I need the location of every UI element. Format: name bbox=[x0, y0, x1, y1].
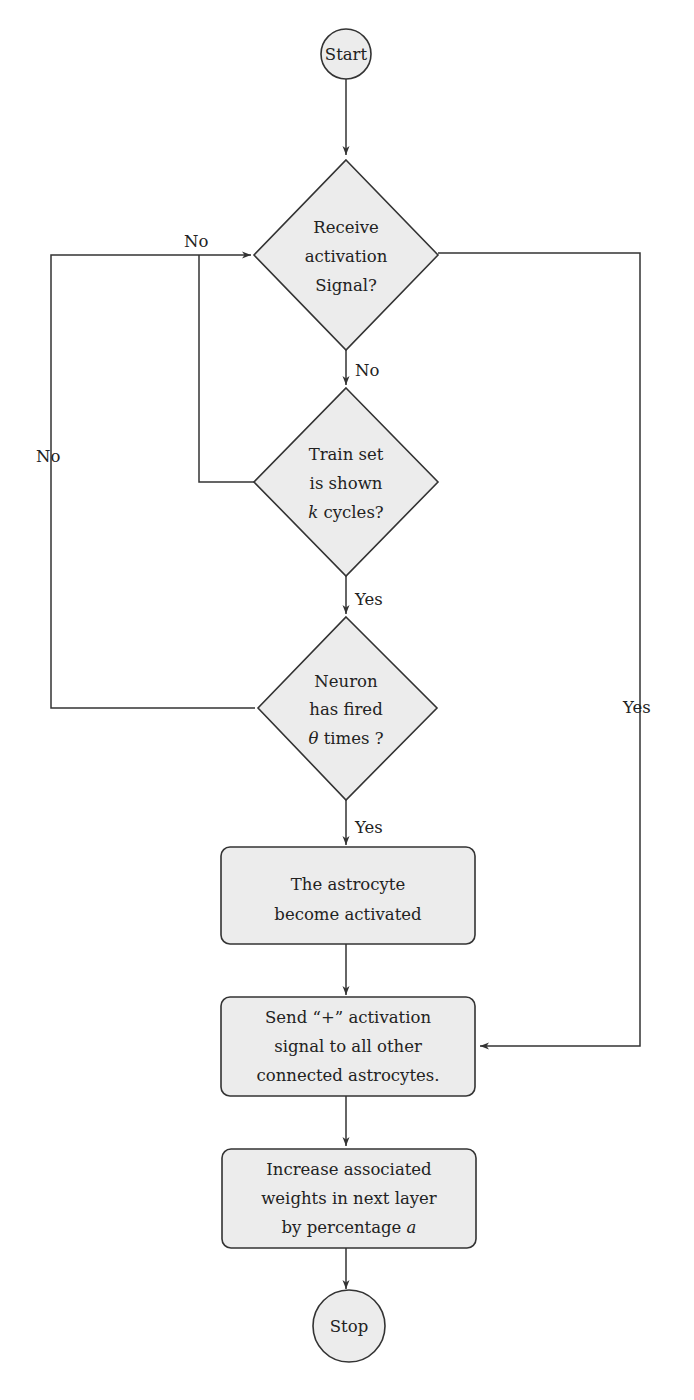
increase-line-3: by percentage a bbox=[282, 1218, 417, 1237]
train-line-2: is shown bbox=[310, 474, 383, 493]
increase-line-3-text: by percentage bbox=[282, 1218, 402, 1237]
node-increase-process: Increase associated weights in next laye… bbox=[222, 1149, 476, 1248]
edge-train-to-receive bbox=[199, 255, 254, 482]
node-send-process: Send “+” activation signal to all other … bbox=[221, 997, 475, 1096]
label-no-top: No bbox=[184, 232, 208, 251]
train-line-3-text: cycles? bbox=[324, 503, 384, 522]
neuron-line-2: has fired bbox=[309, 700, 383, 719]
astro-line-2: become activated bbox=[274, 905, 422, 924]
neuron-line-3: θ times ? bbox=[308, 729, 383, 748]
send-line-3: connected astrocytes. bbox=[256, 1066, 439, 1085]
flowchart: No No No Yes Yes Yes Start Receive activ… bbox=[0, 0, 694, 1400]
start-label: Start bbox=[325, 45, 368, 64]
send-line-2: signal to all other bbox=[274, 1037, 422, 1056]
neuron-line-1: Neuron bbox=[314, 672, 378, 691]
send-line-1: Send “+” activation bbox=[265, 1008, 431, 1027]
increase-var-a: a bbox=[407, 1218, 417, 1237]
train-line-1: Train set bbox=[309, 445, 384, 464]
neuron-line-3-text: times ? bbox=[324, 729, 384, 748]
astro-box bbox=[221, 847, 475, 944]
label-yes-right: Yes bbox=[622, 698, 651, 717]
stop-label: Stop bbox=[330, 1317, 368, 1336]
label-no-left: No bbox=[36, 447, 60, 466]
increase-line-2: weights in next layer bbox=[261, 1189, 437, 1208]
receive-line-3: Signal? bbox=[315, 276, 377, 295]
astro-line-1: The astrocyte bbox=[291, 875, 405, 894]
node-train-decision: Train set is shown k cycles? bbox=[254, 388, 438, 576]
receive-line-1: Receive bbox=[313, 218, 379, 237]
node-stop: Stop bbox=[313, 1290, 385, 1362]
train-line-3: k cycles? bbox=[308, 503, 384, 522]
node-neuron-decision: Neuron has fired θ times ? bbox=[258, 617, 437, 800]
label-yes-train: Yes bbox=[354, 590, 383, 609]
receive-line-2: activation bbox=[305, 247, 388, 266]
label-no-receive: No bbox=[355, 361, 379, 380]
train-var-k: k bbox=[308, 503, 318, 522]
neuron-var-theta: θ bbox=[308, 729, 318, 748]
node-astro-process: The astrocyte become activated bbox=[221, 847, 475, 944]
node-start: Start bbox=[321, 29, 371, 79]
node-receive-decision: Receive activation Signal? bbox=[254, 160, 438, 350]
increase-line-1: Increase associated bbox=[266, 1160, 432, 1179]
label-yes-neuron: Yes bbox=[354, 818, 383, 837]
